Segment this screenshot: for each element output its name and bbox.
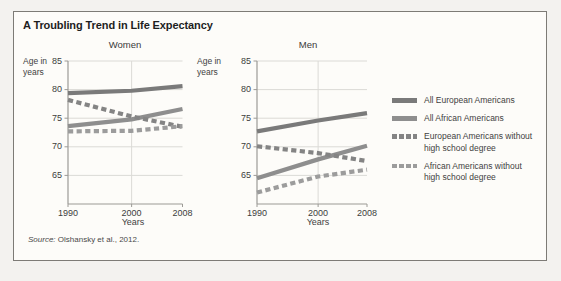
x-tick-label: 1990 [58, 208, 78, 218]
legend-swatch-1 [392, 116, 417, 121]
y-tick-label: 80 [229, 84, 251, 94]
series-line [257, 113, 367, 131]
women-x-axis-label: Years [122, 217, 145, 227]
legend-item: All European Americans [392, 95, 542, 107]
source-note: Source: Olshansky et al., 2012. [28, 235, 139, 244]
x-tick-label: 1990 [247, 208, 267, 218]
figure-page: A Troubling Trend in Life Expectancy Wom… [0, 0, 561, 281]
y-tick-label: 75 [229, 113, 251, 123]
legend: All European Americans All African Ameri… [392, 95, 542, 190]
women-chart-title: Women [109, 39, 142, 50]
women-chart [68, 61, 183, 204]
legend-label: All European Americans [424, 95, 515, 107]
y-tick-label: 70 [40, 141, 62, 151]
men-x-axis-label: Years [307, 217, 330, 227]
men-chart [257, 61, 367, 204]
y-tick-label: 75 [40, 113, 62, 123]
y-tick-label: 65 [40, 170, 62, 180]
legend-swatch-0 [392, 98, 417, 103]
figure-title: A Troubling Trend in Life Expectancy [23, 19, 213, 31]
source-label: Source: [28, 235, 56, 244]
y-tick-label: 80 [40, 84, 62, 94]
y-tick-label: 65 [229, 170, 251, 180]
x-tick-label: 2000 [308, 208, 328, 218]
series-line [68, 109, 183, 126]
legend-label: African Americans without high school de… [424, 161, 522, 184]
legend-item: African Americans without high school de… [392, 161, 542, 184]
y-tick-label: 70 [229, 141, 251, 151]
legend-item: European Americans without high school d… [392, 131, 542, 154]
men-y-axis-label: Age in years [197, 56, 221, 78]
y-tick-label: 85 [229, 56, 251, 66]
y-tick-label: 85 [40, 56, 62, 66]
men-chart-title: Men [299, 39, 317, 50]
legend-label: All African Americans [424, 113, 504, 125]
x-tick-label: 2000 [122, 208, 142, 218]
series-line [68, 126, 183, 131]
source-text: Olshansky et al., 2012. [56, 235, 140, 244]
legend-item: All African Americans [392, 113, 542, 125]
legend-swatch-3 [392, 164, 417, 169]
x-tick-label: 2008 [172, 208, 192, 218]
legend-label: European Americans without high school d… [424, 131, 532, 154]
legend-swatch-2 [392, 134, 417, 139]
x-tick-label: 2008 [357, 208, 377, 218]
